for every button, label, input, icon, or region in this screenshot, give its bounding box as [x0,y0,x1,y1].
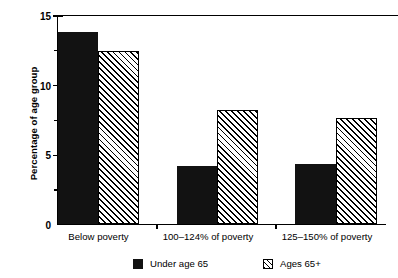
legend-swatch-solid-icon [133,259,143,269]
bar-under-65-below-poverty [58,32,98,224]
y-tick-label-5: 5 [5,150,51,161]
x-tick-2 [275,224,277,229]
legend-label-under-age-65: Under age 65 [150,258,208,269]
x-axis-label-below-poverty: Below poverty [58,231,139,242]
chart-legend: Under age 65 Ages 65+ [0,258,398,274]
x-tick-1 [156,224,158,229]
legend-swatch-hatch-icon [263,259,273,269]
bar-ages-65-plus-below-poverty [98,51,139,224]
legend-label-ages-65-plus: Ages 65+ [280,258,321,269]
x-axis-label-125-150: 125–150% of poverty [271,231,383,242]
y-tick-label-10: 10 [5,80,51,91]
bar-chart: Percentage of age group 15 10 5 0 Below … [0,0,398,278]
y-tick-major-15 [53,15,63,17]
x-axis-label-100-124: 100–124% of poverty [152,231,264,242]
bar-ages-65-plus-100-124 [217,110,258,224]
y-tick-label-15: 15 [5,11,51,22]
y-axis-tick-labels: 15 10 5 0 [0,0,51,278]
y-tick-label-0: 0 [5,220,51,231]
legend-item-ages-65-plus: Ages 65+ [263,258,321,269]
legend-item-under-age-65: Under age 65 [133,258,208,269]
bar-ages-65-plus-125-150 [336,118,377,224]
bar-under-65-125-150 [295,164,336,224]
bar-under-65-100-124 [177,166,217,225]
plot-area [57,16,386,225]
